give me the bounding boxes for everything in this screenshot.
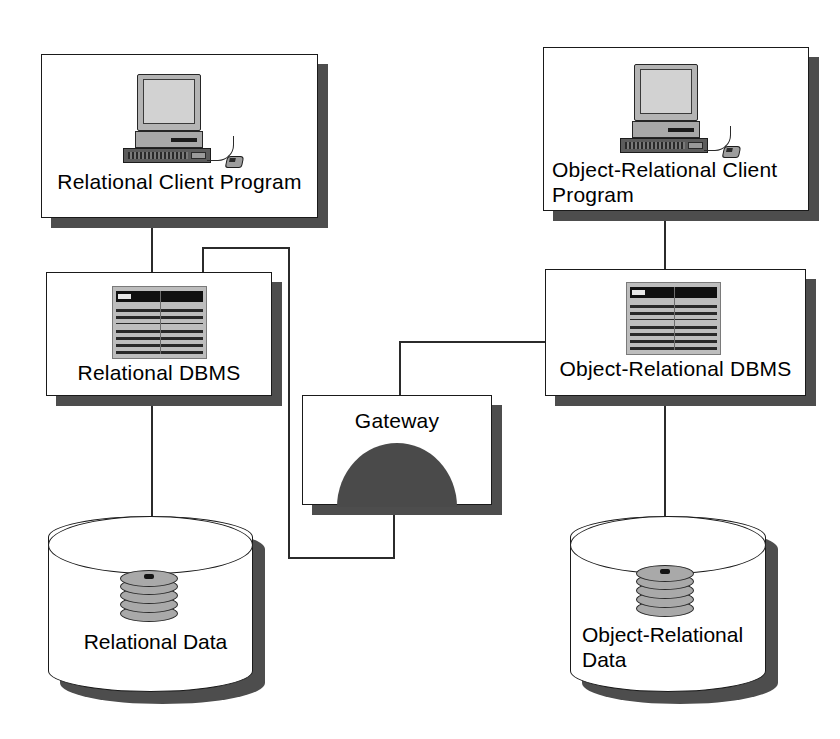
node-label: Gateway: [302, 408, 492, 433]
cylinder-top: [48, 516, 253, 574]
connector-dbms-gateway-seg4: [288, 557, 395, 559]
connector-dbms-gateway-seg2: [202, 247, 290, 249]
node-label: Relational Data: [63, 629, 248, 654]
node-object-relational-dbms[interactable]: Object-Relational DBMS: [545, 269, 806, 396]
connector-dbms-gateway-seg1: [202, 247, 204, 272]
node-label: Object-Relational Client Program: [552, 157, 803, 207]
connector-or-dbms-to-data: [664, 396, 666, 516]
connector-dbms-gateway-seg3: [288, 247, 290, 558]
diagram-canvas: Relational Client Program Object-Relatio…: [0, 0, 840, 739]
database-table-icon: [112, 286, 207, 359]
database-table-icon: [626, 282, 721, 355]
node-label: Object-Relational DBMS: [545, 356, 806, 381]
node-relational-dbms[interactable]: Relational DBMS: [46, 272, 272, 396]
node-label: Relational Client Program: [41, 169, 318, 194]
node-object-relational-data[interactable]: Object-Relational Data: [570, 516, 766, 692]
node-relational-client-program[interactable]: Relational Client Program: [41, 54, 318, 218]
disk-stack-icon: [636, 565, 694, 617]
connector-gateway-or-dbms-seg2: [399, 341, 563, 343]
node-gateway[interactable]: Gateway: [302, 395, 492, 505]
node-label: Relational DBMS: [46, 360, 272, 385]
connector-relational-dbms-to-data: [151, 396, 153, 516]
desktop-computer-icon: [620, 64, 745, 160]
node-relational-data[interactable]: Relational Data: [48, 516, 253, 692]
node-label: Object-Relational Data: [582, 622, 772, 672]
disk-stack-icon: [120, 570, 178, 622]
desktop-computer-icon: [123, 74, 248, 170]
node-object-relational-client-program[interactable]: Object-Relational Client Program: [543, 47, 809, 211]
connector-gateway-or-dbms-seg1: [399, 341, 401, 395]
